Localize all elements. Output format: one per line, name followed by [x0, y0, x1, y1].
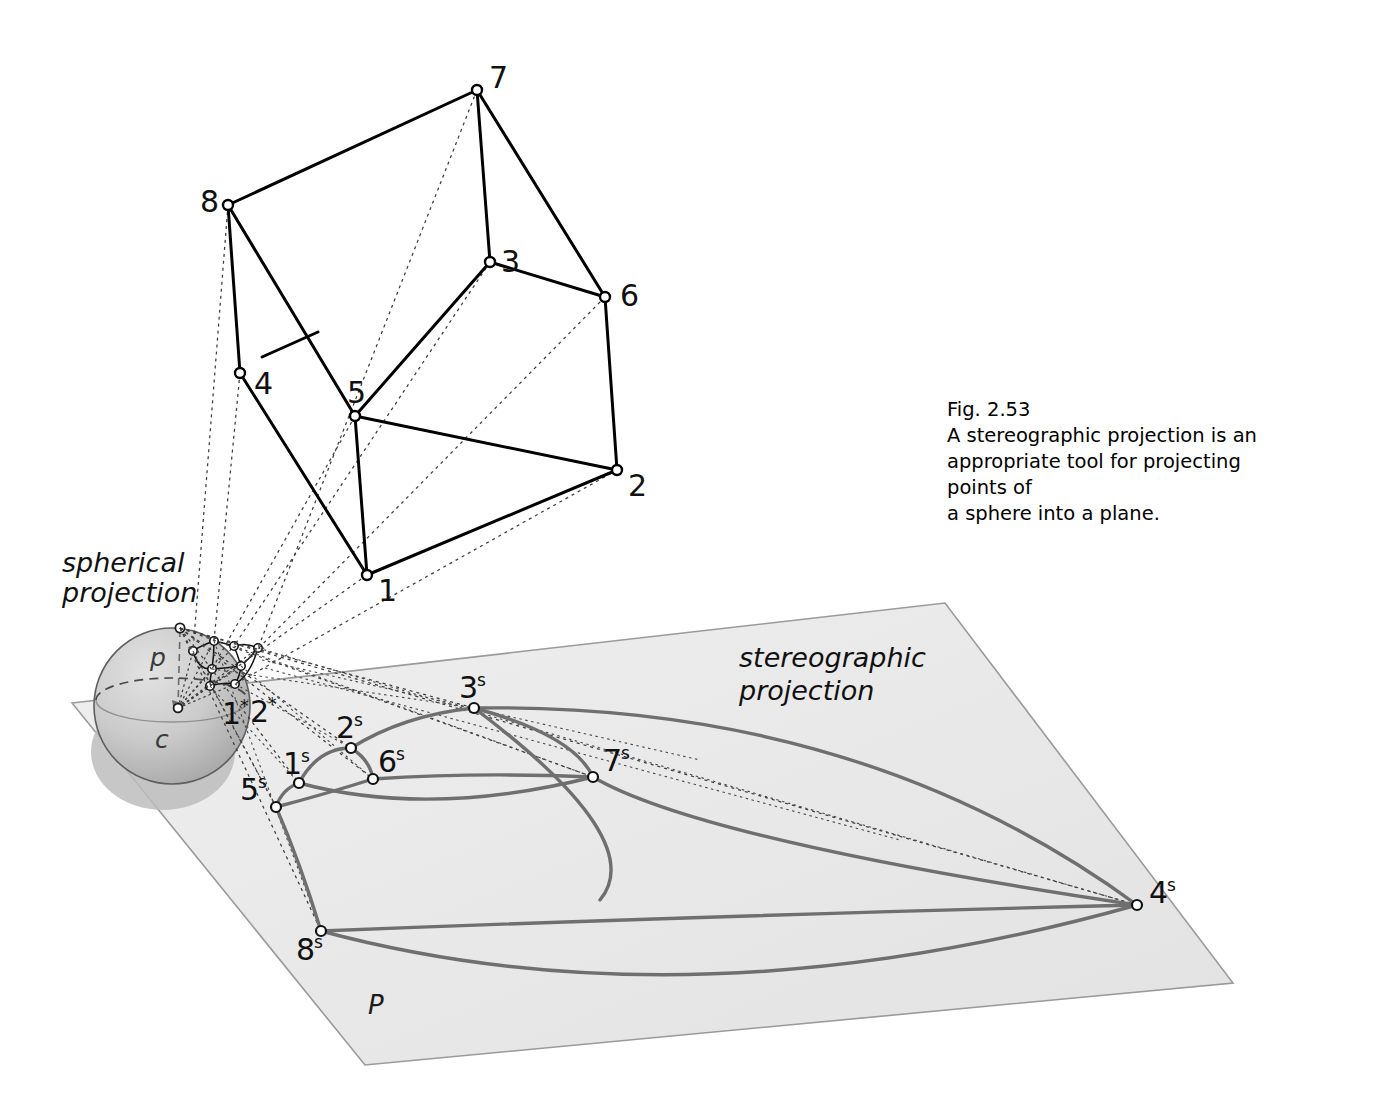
spherical-point-labels: 1 * 2 *	[222, 694, 277, 731]
stereo-point-5s	[271, 802, 281, 812]
sphere-pole-label: p	[149, 643, 166, 672]
cube-edge-5-1	[355, 416, 367, 575]
cube-vertex-5	[350, 411, 360, 421]
spherical-projection-line1: spherical	[62, 547, 185, 578]
stereo-point-6s	[368, 774, 378, 784]
svg-text:5: 5	[240, 772, 259, 807]
cube-label-8: 8	[200, 184, 219, 219]
caption-line-1: A stereographic projection is an	[947, 423, 1277, 449]
cube-vertex-8	[223, 200, 233, 210]
cube-vertex-3	[485, 257, 495, 267]
cube-edge-7-3	[477, 90, 490, 262]
cube-vertex-6	[600, 292, 610, 302]
svg-text:s: s	[621, 743, 630, 763]
cube-edge-6-2	[605, 297, 617, 470]
sphere-center-label: c	[155, 725, 169, 754]
figure-number: Fig. 2.53	[947, 397, 1277, 423]
svg-text:s: s	[301, 746, 310, 766]
svg-text:*: *	[268, 694, 277, 714]
ray-cube-6	[241, 297, 605, 666]
ray-cube-8	[193, 205, 228, 651]
figure-root: 1 2 3 4 5 6 7 8 1	[0, 0, 1386, 1107]
svg-text:2: 2	[250, 694, 269, 729]
svg-text:3: 3	[459, 670, 478, 705]
cube-vertex-4	[235, 368, 245, 378]
figure-caption: Fig. 2.53 A stereographic projection is …	[947, 397, 1277, 527]
svg-text:7: 7	[603, 743, 622, 778]
caption-line-3: a sphere into a plane.	[947, 501, 1277, 527]
stereographic-projection-diagram: 1 2 3 4 5 6 7 8 1	[0, 0, 1386, 1107]
stereo-point-7s	[588, 772, 598, 782]
cube-edge-4-5-partial	[262, 332, 318, 357]
cube-vertex-7	[472, 85, 482, 95]
cube-label-5: 5	[347, 375, 366, 410]
svg-text:8: 8	[296, 932, 315, 967]
cube-edge-3-5-partial	[355, 262, 490, 416]
svg-text:s: s	[477, 670, 486, 690]
plane-label-P: P	[368, 990, 384, 1020]
stereographic-projection-line1: stereographic	[739, 642, 926, 673]
cube-label-7: 7	[489, 60, 508, 95]
cube-edges	[228, 90, 617, 575]
svg-text:2: 2	[336, 710, 355, 745]
cube-edge-1-2	[367, 470, 617, 575]
cube-label-6: 6	[620, 278, 639, 313]
svg-text:s: s	[396, 744, 405, 764]
cube-vertex-labels: 1 2 3 4 5 6 7 8	[200, 60, 647, 608]
cube-label-3: 3	[501, 244, 520, 279]
cube-edge-7-6	[477, 90, 605, 297]
svg-text:s: s	[1167, 875, 1176, 895]
cube-vertex-1	[362, 570, 372, 580]
stereographic-projection-line2: projection	[738, 675, 874, 706]
cube-vertex-2	[612, 465, 622, 475]
svg-text:s: s	[314, 932, 323, 952]
cube-label-4: 4	[254, 366, 273, 401]
svg-text:6: 6	[378, 744, 397, 779]
cube-edge-5-2	[355, 416, 617, 470]
cube-edge-8-4	[228, 205, 240, 373]
cube-label-1: 1	[378, 573, 397, 608]
projection-plane	[72, 603, 1233, 1065]
ray-cube-4	[214, 373, 240, 641]
ray-cube-3	[234, 262, 490, 646]
projection-plane-group	[72, 603, 1233, 1065]
stereo-point-4s	[1132, 900, 1142, 910]
cube-vertices	[223, 85, 622, 580]
spherical-projection-label: spherical projection	[61, 547, 197, 608]
svg-text:*: *	[240, 696, 249, 716]
svg-text:1: 1	[222, 696, 241, 731]
source-cube-group	[223, 85, 622, 580]
svg-text:s: s	[258, 772, 267, 792]
svg-text:1: 1	[283, 746, 302, 781]
cube-label-2: 2	[628, 468, 647, 503]
ray-cube-5	[212, 416, 355, 669]
cube-edge-8-7	[228, 90, 477, 205]
sphere-center-point	[174, 704, 183, 713]
caption-line-2: appropriate tool for projecting points o…	[947, 449, 1277, 501]
svg-text:4: 4	[1149, 875, 1168, 910]
svg-text:s: s	[354, 710, 363, 730]
spherical-projection-line2: projection	[61, 577, 197, 608]
